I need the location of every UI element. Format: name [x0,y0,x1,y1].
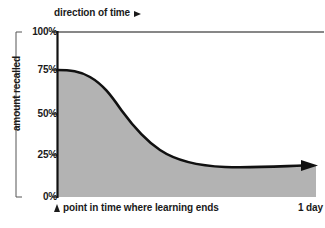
caption-label: direction of time [54,8,130,18]
y-tick-label-25: 25% [15,150,57,160]
y-axis-title: amount recalled [11,49,22,139]
y-tick-label-100: 100% [15,27,57,37]
x-axis-note-label: point in time where learning ends [63,202,219,213]
right-arrow-icon [134,11,141,17]
x-axis-note: point in time where learning ends [54,202,219,213]
y-tick-label-0: 0% [15,192,57,202]
direction-of-time-caption: direction of time [54,8,141,18]
x-axis-end-label: 1 day [298,203,323,213]
area-fill [57,70,316,197]
forgetting-curve-chart: direction of time 100% 75% 50% 25% 0% am… [0,0,325,228]
up-triangle-marker-icon [54,204,60,212]
